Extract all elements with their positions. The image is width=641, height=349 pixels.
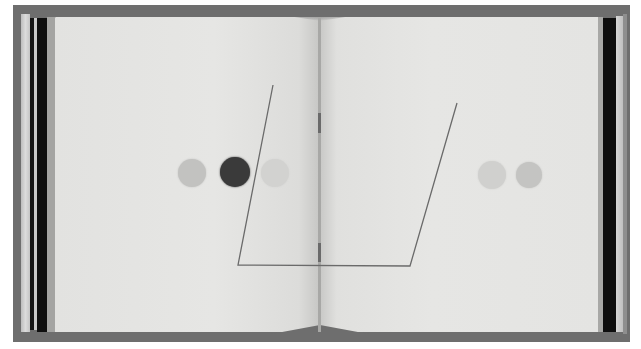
parallelogram-line [238, 85, 457, 266]
drawn-line-figure [0, 0, 641, 349]
